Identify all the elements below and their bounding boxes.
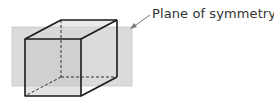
plane-of-symmetry-label: Plane of symmetry [152,6,274,21]
cube-front-face-fill [25,39,81,96]
arrow-icon [130,15,150,29]
